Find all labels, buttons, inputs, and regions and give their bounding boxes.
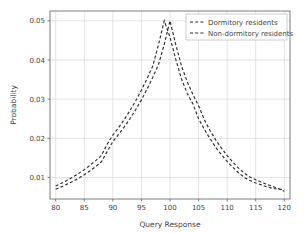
y-tick-label: 0.02: [29, 135, 45, 143]
chart-legend: Dormitory residents Non-dormitory reside…: [186, 14, 294, 40]
x-tick-label: 80: [51, 204, 60, 212]
x-tick-label: 105: [192, 204, 205, 212]
x-axis-title: Query Response: [139, 220, 201, 229]
y-tick-label: 0.04: [29, 57, 45, 65]
y-axis-title: Probability: [9, 85, 18, 125]
x-tick-label: 90: [108, 204, 117, 212]
legend-label-dormitory: Dormitory residents: [208, 19, 278, 27]
legend-label-non-dormitory: Non-dormitory residents: [208, 30, 294, 38]
x-tick-label: 100: [163, 204, 176, 212]
chart-plot: 80859095100105110115120 0.010.020.030.04…: [0, 0, 307, 233]
x-tick-label: 85: [80, 204, 89, 212]
x-tick-label: 110: [220, 204, 233, 212]
x-tick-label: 115: [249, 204, 262, 212]
x-tick-label: 95: [137, 204, 146, 212]
y-tick-label: 0.01: [29, 174, 45, 182]
y-tick-label: 0.03: [29, 96, 45, 104]
y-tick-label: 0.05: [29, 17, 45, 25]
figure-canvas: 80859095100105110115120 0.010.020.030.04…: [0, 0, 307, 233]
x-tick-label: 120: [278, 204, 291, 212]
